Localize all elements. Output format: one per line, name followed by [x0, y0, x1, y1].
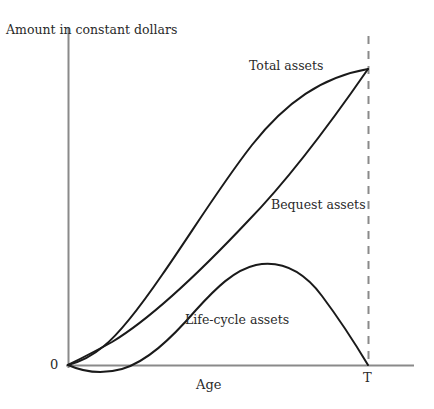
y-axis-label: Amount in constant dollars: [6, 22, 64, 38]
terminal-tick-label-T: T: [363, 370, 372, 387]
x-axis-label: Age: [196, 377, 221, 394]
series-label-total-assets: Total assets: [249, 58, 323, 74]
chart-plot-area: [0, 0, 434, 409]
chart-figure: Amount in constant dollars Age 0 T Total…: [0, 0, 434, 409]
origin-tick-label: 0: [50, 357, 58, 374]
series-label-bequest-assets: Bequest assets: [271, 197, 366, 213]
series-label-life-cycle-assets: Life-cycle assets: [185, 312, 289, 328]
